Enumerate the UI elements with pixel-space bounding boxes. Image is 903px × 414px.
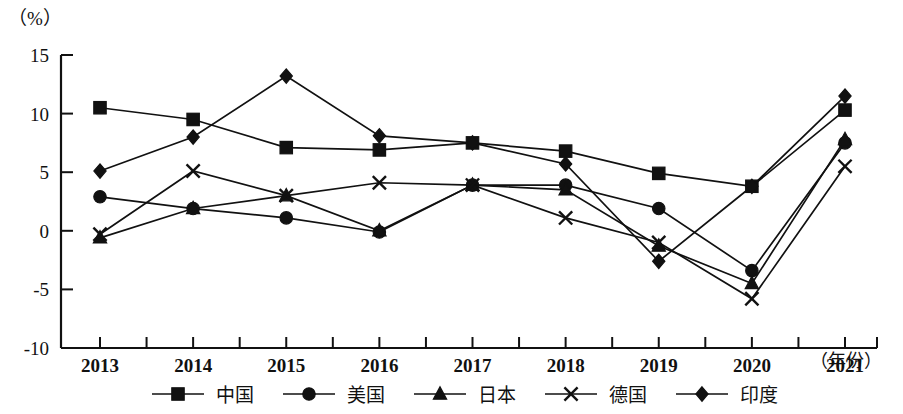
data-point-cross [838, 160, 851, 173]
legend-item-日本[interactable] [414, 387, 466, 399]
chart-canvas: （%） 151050-5-10 201320142015201620172018… [0, 0, 903, 414]
data-point-cross [187, 164, 200, 177]
data-point-square [559, 145, 571, 157]
y-axis-ticks [61, 55, 73, 348]
data-point-square [653, 167, 665, 179]
y-tick-label: -5 [33, 279, 49, 300]
data-point-square [172, 388, 184, 400]
y-axis-unit-label: （%） [8, 8, 62, 29]
data-point-square [373, 144, 385, 156]
data-point-circle [280, 212, 292, 224]
series-polyline [100, 139, 845, 283]
data-point-diamond [280, 69, 292, 83]
legend-label: 中国 [216, 385, 254, 406]
data-point-cross [559, 211, 572, 224]
y-tick-label: -10 [24, 338, 49, 359]
data-point-diamond [187, 130, 199, 144]
data-point-square [839, 104, 851, 116]
y-tick-label: 15 [30, 45, 49, 66]
line-chart-figure: （%） 151050-5-10 201320142015201620172018… [0, 0, 903, 414]
x-axis-name-label: （年份） [810, 351, 882, 371]
x-tick-label: 2018 [547, 355, 585, 376]
x-tick-label: 2014 [174, 355, 213, 376]
data-point-circle [94, 191, 106, 203]
x-tick-label: 2020 [733, 355, 771, 376]
series-group [93, 69, 851, 305]
x-tick-label: 2019 [640, 355, 678, 376]
legend-label: 印度 [740, 385, 778, 406]
data-point-circle [303, 388, 315, 400]
legend-item-德国[interactable] [545, 387, 597, 400]
data-point-cross [745, 292, 758, 305]
y-axis-tick-labels: 151050-5-10 [24, 45, 49, 359]
series-4 [94, 69, 851, 269]
chart-legend: 中国美国日本德国印度 [152, 385, 778, 406]
x-axis-tick-labels: 201320142015201620172018201920202021 [81, 355, 864, 376]
x-axis-ticks [100, 337, 877, 348]
data-point-circle [653, 202, 665, 214]
axes-group: 151050-5-10 2013201420152016201720182019… [24, 45, 877, 376]
legend-label: 美国 [347, 385, 385, 406]
legend-item-美国[interactable] [283, 388, 335, 400]
legend-label: 日本 [478, 385, 516, 406]
data-point-diamond [696, 387, 708, 401]
y-tick-label: 10 [30, 104, 49, 125]
x-tick-label: 2015 [267, 355, 305, 376]
legend-item-印度[interactable] [676, 387, 728, 401]
series-polyline [100, 76, 845, 261]
x-tick-label: 2016 [360, 355, 398, 376]
data-point-square [187, 113, 199, 125]
data-point-triangle [433, 387, 446, 399]
y-tick-label: 5 [40, 162, 50, 183]
data-point-diamond [373, 129, 385, 143]
y-tick-label: 0 [40, 221, 50, 242]
x-tick-label: 2017 [454, 355, 493, 376]
data-point-circle [746, 264, 758, 276]
data-point-diamond [94, 164, 106, 178]
data-point-square [94, 102, 106, 114]
data-point-square [280, 141, 292, 153]
legend-label: 德国 [609, 385, 647, 406]
x-tick-label: 2013 [81, 355, 119, 376]
legend-item-中国[interactable] [152, 388, 204, 400]
